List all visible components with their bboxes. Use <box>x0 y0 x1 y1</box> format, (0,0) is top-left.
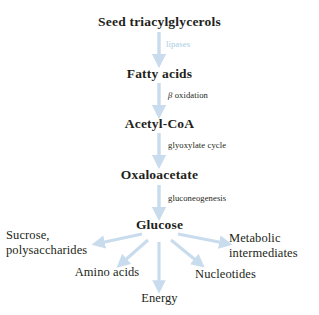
edge-label-glyoxylate-cycle-text: glyoxylate cycle <box>168 140 226 150</box>
node-label-nucleotides: Nucleotides <box>195 267 256 281</box>
node-amino-acids: Amino acids <box>52 265 162 280</box>
node-nucleotides: Nucleotides <box>178 267 273 282</box>
node-label-sucrose: Sucrose, <box>6 228 50 242</box>
node-seed-triacylglycerols: Seed triacylglycerols <box>0 14 319 30</box>
node-label-seed-triacylglycerols: Seed triacylglycerols <box>98 14 221 29</box>
node-label-metabolic: Metabolic <box>229 231 281 245</box>
arrow-glucose-to-amino-acids <box>123 240 148 262</box>
node-label-acetyl-coa: Acetyl-CoA <box>125 116 194 131</box>
node-oxaloacetate: Oxaloacetate <box>0 167 319 183</box>
node-energy: Energy <box>0 291 319 306</box>
node-label-intermediates: intermediates <box>229 246 298 260</box>
node-fatty-acids: Fatty acids <box>0 66 319 82</box>
node-acetyl-coa: Acetyl-CoA <box>0 116 319 132</box>
node-label-fatty-acids: Fatty acids <box>127 66 193 81</box>
edge-label-lipases-text: lipases <box>166 39 190 49</box>
edge-label-beta-oxidation-text: oxidation <box>172 90 208 100</box>
node-label-amino-acids: Amino acids <box>75 265 140 279</box>
arrow-glucose-to-sucrose-polysaccharides <box>100 234 142 243</box>
node-label-glucose: Glucose <box>136 217 183 232</box>
edge-label-lipases: lipases <box>166 39 190 49</box>
node-label-oxaloacetate: Oxaloacetate <box>121 167 198 182</box>
node-sucrose-polysaccharides: Sucrose, polysaccharides <box>6 228 101 259</box>
edge-label-gluconeogenesis: gluconeogenesis <box>168 193 226 203</box>
arrow-glucose-to-nucleotides <box>171 240 198 262</box>
edge-label-gluconeogenesis-text: gluconeogenesis <box>168 193 226 203</box>
pathway-diagram: Seed triacylglycerols lipases Fatty acid… <box>0 0 319 315</box>
node-label-polysaccharides: polysaccharides <box>6 243 87 257</box>
arrow-glucose-to-metabolic-intermediates <box>178 234 224 243</box>
edge-label-glyoxylate-cycle: glyoxylate cycle <box>168 140 226 150</box>
node-label-energy: Energy <box>141 291 177 305</box>
node-metabolic-intermediates: Metabolic intermediates <box>229 231 317 262</box>
edge-label-beta-oxidation: β oxidation <box>168 90 208 100</box>
